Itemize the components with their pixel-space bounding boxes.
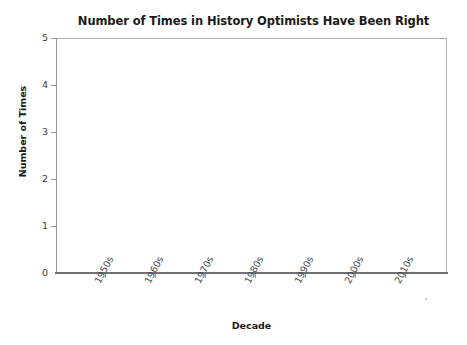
- chart-title: Number of Times in History Optimists Hav…: [0, 14, 467, 28]
- y-tick-label-5: 5: [8, 33, 48, 43]
- x-axis-title: Decade: [56, 320, 447, 331]
- plot-area: [56, 38, 447, 273]
- artifact-speck: [425, 298, 427, 300]
- y-tick-label-4: 4: [8, 80, 48, 90]
- y-tick-label-2: 2: [8, 174, 48, 184]
- y-tick-label-3: 3: [8, 127, 48, 137]
- y-tick-label-1: 1: [8, 221, 48, 231]
- chart-figure: Number of Times in History Optimists Hav…: [0, 0, 467, 345]
- y-tick-label-0: 0: [8, 268, 48, 278]
